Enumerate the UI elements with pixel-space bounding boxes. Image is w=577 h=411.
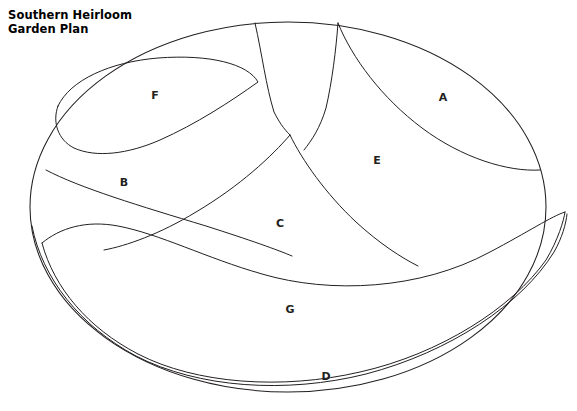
bed-label-b: B — [120, 176, 128, 189]
garden-outline-ellipse — [30, 22, 546, 392]
bed-label-c: C — [276, 217, 284, 230]
bed-label-e: E — [373, 154, 381, 167]
garden-plan-diagram: A B C D E F G — [0, 0, 577, 411]
bed-label-d: D — [321, 370, 330, 383]
garden-plan-page: Southern Heirloom Garden Plan A B C D E — [0, 0, 577, 411]
bed-label-a: A — [439, 91, 448, 104]
bed-label-f: F — [151, 89, 159, 102]
bed-label-g: G — [285, 303, 294, 316]
